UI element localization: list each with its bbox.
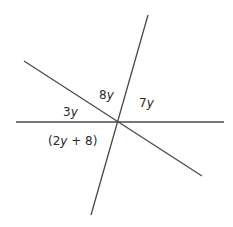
diagonal-line <box>24 61 202 176</box>
angle-label-3y: 3y <box>63 105 79 119</box>
angle-label-2y-plus-8: (2y + 8) <box>48 134 97 148</box>
angle-label-7y: 7y <box>139 96 155 110</box>
steep-line <box>91 15 148 215</box>
diagram-canvas: 8y 7y 3y (2y + 8) <box>0 0 233 227</box>
angle-label-8y: 8y <box>99 88 115 102</box>
lines-diagram: 8y 7y 3y (2y + 8) <box>0 0 233 227</box>
